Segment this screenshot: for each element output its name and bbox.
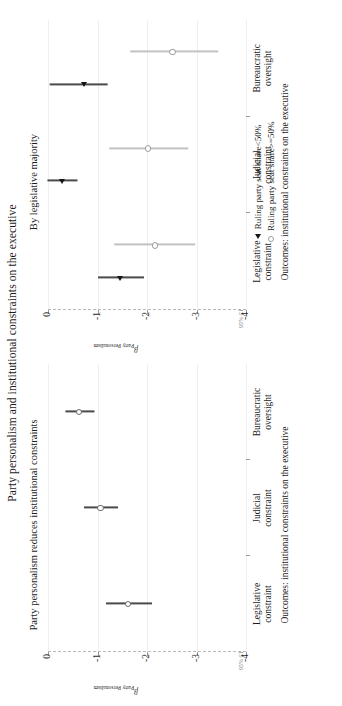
- x-category-label-line: oversight: [263, 364, 274, 460]
- confidence-interval-whisker: [50, 83, 108, 85]
- x-tick-mark: [246, 459, 250, 460]
- gridline: [48, 20, 49, 310]
- y-tick-label: -4: [240, 654, 250, 692]
- zero-reference-line: [48, 309, 246, 310]
- y-tick-label: -1: [92, 654, 102, 692]
- estimate-marker: [145, 145, 152, 152]
- legend-filled-triangle-icon: [255, 234, 261, 239]
- y-tick-label: -4: [240, 312, 250, 350]
- panel-title-overall: Party personalism reduces institutional …: [28, 358, 39, 692]
- legend: Ruling party seat share<50%Ruling party …: [250, 14, 276, 350]
- panel-title-by-majority: By legislative majority: [28, 14, 39, 350]
- estimate-marker: [169, 49, 176, 56]
- y-tick-label: 0: [42, 312, 52, 350]
- panel-overall: Party personalism reduces institutional …: [28, 358, 320, 692]
- beta-symbol: β: [134, 687, 138, 696]
- estimate-marker: [117, 276, 123, 281]
- x-category-label-line: Bureaucratic: [252, 364, 263, 460]
- rotated-figure-frame: Party personalism and institutional cons…: [0, 0, 342, 706]
- figure-title: Party personalism and institutional cons…: [6, 0, 18, 706]
- legend-entry: Ruling party seat share<50%: [253, 14, 263, 350]
- x-category-label-line: Judicial: [252, 460, 263, 556]
- estimate-marker: [152, 242, 159, 249]
- y-tick-label: -2: [141, 654, 151, 692]
- gridline: [197, 20, 198, 310]
- x-category-label-line: constraint: [263, 460, 274, 556]
- gridline: [197, 364, 198, 652]
- x-axis-title-overall: Outcomes: institutional constraints on t…: [280, 358, 290, 692]
- x-category-label-line: Legislative: [252, 556, 263, 652]
- panel-by-majority: By legislative majority 95% CI βParty Pe…: [28, 14, 320, 350]
- y-tick-label: 0: [42, 654, 52, 692]
- beta-symbol: β: [134, 345, 138, 354]
- gridline: [147, 20, 148, 310]
- gridline: [147, 364, 148, 652]
- legend-label: Ruling party seat share>=50%: [266, 122, 276, 231]
- legend-entry: Ruling party seat share>=50%: [266, 14, 276, 350]
- coefficient-plot-figure: Party personalism and institutional cons…: [0, 0, 342, 706]
- y-tick-label: -3: [191, 312, 201, 350]
- x-category-label: Judicialconstraint: [252, 460, 274, 556]
- y-tick-label: -1: [92, 312, 102, 350]
- x-category-label: Legislativeconstraint: [252, 556, 274, 652]
- zero-reference-line: [48, 651, 246, 652]
- y-tick-label: -3: [191, 654, 201, 692]
- gridline: [246, 20, 247, 310]
- gridline: [98, 20, 99, 310]
- x-category-label-line: constraint: [263, 556, 274, 652]
- estimate-marker: [81, 82, 87, 87]
- x-category-label: Bureaucraticoversight: [252, 364, 274, 460]
- legend-label: Ruling party seat share<50%: [253, 125, 263, 229]
- estimate-marker: [97, 505, 104, 512]
- estimate-marker: [59, 179, 65, 184]
- x-axis-title-by-majority: Outcomes: institutional constraints on t…: [280, 14, 290, 350]
- y-tick-label: -2: [141, 312, 151, 350]
- x-tick-mark: [246, 555, 250, 556]
- legend-open-circle-icon: [268, 236, 274, 242]
- gridline: [246, 364, 247, 652]
- gridline: [48, 364, 49, 652]
